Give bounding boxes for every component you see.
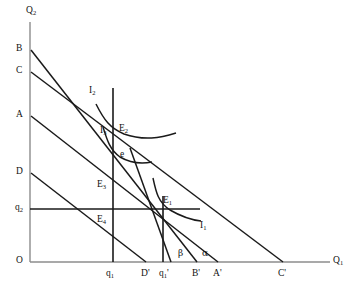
budget-line-CC — [31, 72, 283, 262]
y-intercept-A: A — [16, 110, 23, 120]
y-intercept-B: B — [16, 44, 22, 54]
x-intercept-q1: q1 — [106, 269, 114, 279]
point-label-E4: E4 — [97, 215, 106, 225]
curve-label-I2: I2 — [89, 86, 95, 96]
point-label-E1: E1 — [163, 196, 172, 206]
y-intercept-q2: q2 — [15, 203, 23, 213]
indifference-curve-figure: Q2 Q1 O B C A D q2 q1 D' q1' B' A' C' E2… — [0, 0, 352, 296]
diagram-canvas — [0, 0, 352, 296]
angle-label-beta: β — [178, 249, 183, 258]
x-axis-label: Q1 — [333, 256, 343, 266]
x-intercept-C-prime: C' — [278, 269, 286, 279]
budget-line-DD — [31, 173, 146, 262]
y-axis-label: Q2 — [26, 6, 36, 16]
angle-label-alpha: α — [202, 249, 208, 258]
y-intercept-D: D — [16, 167, 23, 177]
x-intercept-B-prime: B' — [192, 269, 200, 279]
curve-label-I3: I3 — [100, 126, 106, 136]
origin-label: O — [16, 256, 23, 266]
budget-line-BB — [31, 50, 197, 262]
x-intercept-A-prime: A' — [213, 269, 222, 279]
x-intercept-q1-prime: q1' — [159, 269, 169, 279]
point-label-E3: E3 — [97, 180, 106, 190]
point-label-E2: E2 — [119, 124, 128, 134]
indifference-curve-I2 — [96, 104, 176, 138]
budget-line-AA — [31, 116, 218, 262]
point-label-e: e — [120, 150, 124, 160]
x-intercept-D-prime: D' — [141, 269, 150, 279]
curve-label-I1: I1 — [200, 221, 206, 231]
y-intercept-C: C — [16, 66, 22, 76]
